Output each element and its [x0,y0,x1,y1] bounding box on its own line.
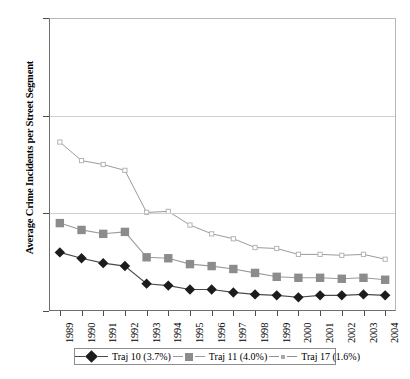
x-axis-tick-mark [147,311,148,316]
x-axis-tick-label: 2002 [346,323,357,343]
x-axis-tick-label: 1990 [86,323,97,343]
x-axis-tick-mark [125,311,126,316]
x-axis-tick-mark [385,311,386,316]
x-axis-tick-mark [320,311,321,316]
x-axis-tick-mark [190,311,191,316]
x-axis-tick-label: 1991 [107,323,118,343]
x-axis-tick-label: 1992 [129,323,140,343]
x-axis-tick-mark [212,311,213,316]
x-axis-tick-mark [277,311,278,316]
x-axis-tick-label: 2001 [324,323,335,343]
chart-legend: Traj 10 (3.7%)Traj 11 (4.0%)Traj 17 (1.6… [74,348,336,365]
x-axis-tick-label: 2003 [368,323,379,343]
legend-item-2[interactable]: Traj 11 (4.0%) [173,351,269,362]
legend-line-left [75,356,85,357]
x-axis-tick-mark [255,311,256,316]
x-axis-tick-mark [364,311,365,316]
legend-marker-filled-square-icon [185,353,193,361]
legend-line-left [173,356,183,357]
legend-label: Traj 17 (1.6%) [299,351,362,362]
figure-caption [6,370,406,379]
plot-frame [49,18,396,311]
y-axis-title: Average Crime Incidents per Street Segme… [24,23,35,293]
x-axis-tick-mark [298,311,299,316]
x-axis-tick-label: 2004 [389,323,400,343]
x-axis-tick-mark [168,311,169,316]
plot-area [49,18,396,311]
legend-line-left [269,356,279,357]
legend-label: Traj 10 (3.7%) [110,351,173,362]
x-axis-tick-label: 1993 [151,323,162,343]
legend-item-3[interactable]: Traj 17 (1.6%) [269,351,362,362]
x-axis-tick-label: 1996 [216,323,227,343]
chart-figure: Average Crime Incidents per Street Segme… [0,0,410,379]
legend-label: Traj 11 (4.0%) [207,351,269,362]
legend-line-right [195,356,205,357]
x-axis-tick-label: 2000 [302,323,313,343]
y-axis-tick-mark [43,311,49,312]
legend-line-right [98,356,108,357]
x-axis-tick-label: 1994 [172,323,183,343]
x-axis-tick-mark [103,311,104,316]
legend-line-right [287,356,297,357]
x-axis-tick-label: 1995 [194,323,205,343]
legend-marker-open-square-icon [281,355,285,359]
legend-item-1[interactable]: Traj 10 (3.7%) [75,351,173,362]
x-axis-tick-mark [82,311,83,316]
x-axis-tick-label: 1989 [64,323,75,343]
x-axis-tick-mark [342,311,343,316]
legend-marker-filled-diamond-icon [85,350,98,363]
x-axis-tick-mark [60,311,61,316]
x-axis-tick-label: 1998 [259,323,270,343]
x-axis-tick-label: 1997 [237,323,248,343]
x-axis-tick-label: 1999 [281,323,292,343]
x-axis-tick-mark [233,311,234,316]
